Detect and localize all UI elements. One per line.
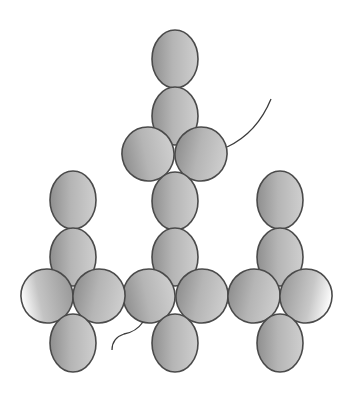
bead-right-top-1 [257,171,303,229]
thread-upper-right-tail [227,99,271,147]
bead-left-bottom [50,314,96,372]
thread-lower-left-tail [112,322,143,350]
bead-left-top-1 [50,171,96,229]
bead-right-bottom [257,314,303,372]
bead-center-mid-1 [152,172,198,230]
beadwork-diagram [0,0,350,393]
bead-center-bottom [152,314,198,372]
bead-center-top-1 [152,30,198,88]
bead-group [16,30,337,372]
